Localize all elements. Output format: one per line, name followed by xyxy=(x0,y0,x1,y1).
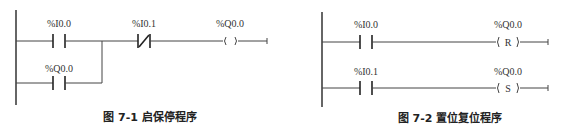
reset-coil-q0-0: R xyxy=(498,37,519,48)
svg-text:S: S xyxy=(505,83,511,94)
coil-q0-0 xyxy=(225,37,237,45)
set-coil-q0-0: S xyxy=(498,83,519,94)
svg-text:R: R xyxy=(505,37,512,48)
contact-label: %I0.0 xyxy=(354,19,378,30)
no-contact-i0-0 xyxy=(53,34,65,48)
contact-label: %Q0.0 xyxy=(45,63,73,74)
coil-label: %Q0.0 xyxy=(216,18,244,29)
nc-contact-i0-1 xyxy=(138,34,150,48)
contact-label: %I0.1 xyxy=(132,18,156,29)
coil-label: %Q0.0 xyxy=(494,66,522,77)
ladder-diagrams: %I0.0 %I0.1 %Q0.0 %Q0.0 图 7-1 启保停程序 xyxy=(0,0,562,129)
figure-caption: 图 7-2 置位复位程序 xyxy=(398,111,503,125)
figure-7-2: %I0.0 R %Q0.0 %I0.1 S %Q0.0 图 7-2 置位复位程序 xyxy=(322,12,548,125)
contact-label: %I0.1 xyxy=(354,66,378,77)
contact-label: %I0.0 xyxy=(47,18,71,29)
no-contact-q0-0 xyxy=(53,76,65,90)
no-contact-i0-1 xyxy=(360,81,372,95)
coil-label: %Q0.0 xyxy=(494,19,522,30)
no-contact-i0-0 xyxy=(360,35,372,49)
figure-7-1: %I0.0 %I0.1 %Q0.0 %Q0.0 图 7-1 启保停程序 xyxy=(16,10,267,124)
figure-caption: 图 7-1 启保停程序 xyxy=(103,110,197,124)
